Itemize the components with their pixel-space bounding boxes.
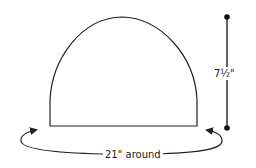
circumference-label: 21" around [103, 149, 163, 160]
dome-outline [50, 17, 197, 126]
height-top-dot [224, 14, 230, 20]
height-bottom-dot [224, 125, 230, 131]
circumference-arrow-left [21, 130, 103, 154]
height-label: 7½" [214, 67, 235, 80]
hat-diagram: 7½" 21" around [0, 0, 256, 168]
diagram-svg [0, 0, 256, 168]
circumference-arrow-right [153, 130, 222, 154]
